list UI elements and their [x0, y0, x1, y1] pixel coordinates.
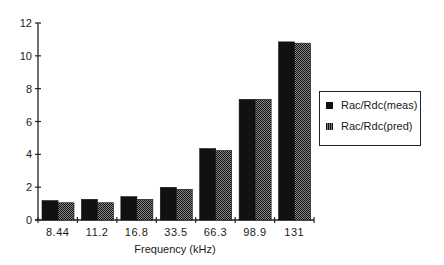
legend-item-pred: Rac/Rdc(pred)	[326, 120, 413, 132]
bar-pred	[137, 199, 153, 220]
bar-meas	[81, 199, 97, 220]
y-tick-label: 2	[26, 181, 32, 193]
x-tick-label: 33.5	[164, 226, 187, 238]
legend-swatch-pred	[326, 123, 333, 130]
x-axis-label: Frequency (kHz)	[134, 243, 215, 255]
bar-meas	[160, 187, 176, 220]
bar-pred	[255, 99, 271, 220]
x-tick-label: 131	[284, 226, 304, 238]
bar-pred	[216, 151, 232, 220]
x-tick-label: 98.9	[243, 226, 266, 238]
x-tick-label: 11.2	[86, 226, 109, 238]
bar-meas	[200, 149, 216, 220]
y-tick-label: 6	[26, 116, 32, 128]
y-tick-label: 10	[20, 50, 32, 62]
y-axis: 024681012	[20, 17, 41, 226]
legend: Rac/Rdc(meas) Rac/Rdc(pred)	[319, 91, 421, 146]
legend-label-pred: Rac/Rdc(pred)	[341, 120, 413, 132]
bar-pred	[176, 189, 192, 220]
bar-pred	[295, 43, 311, 220]
bar-meas	[121, 197, 137, 220]
bar-meas	[42, 201, 58, 220]
x-tick-label: 66.3	[204, 226, 227, 238]
y-tick-label: 8	[26, 83, 32, 95]
bar-meas	[239, 99, 255, 220]
x-tick-label: 8.44	[46, 226, 69, 238]
bars	[42, 42, 311, 220]
legend-swatch-meas	[326, 102, 333, 109]
bar-pred	[97, 203, 113, 220]
y-tick-label: 4	[26, 148, 32, 160]
y-tick-label: 12	[20, 17, 32, 29]
x-tick-label: 16.8	[125, 226, 148, 238]
legend-item-meas: Rac/Rdc(meas)	[326, 99, 417, 111]
y-tick-label: 0	[26, 214, 32, 226]
bar-pred	[58, 203, 74, 220]
bar-meas	[279, 42, 295, 220]
legend-label-meas: Rac/Rdc(meas)	[341, 99, 417, 111]
